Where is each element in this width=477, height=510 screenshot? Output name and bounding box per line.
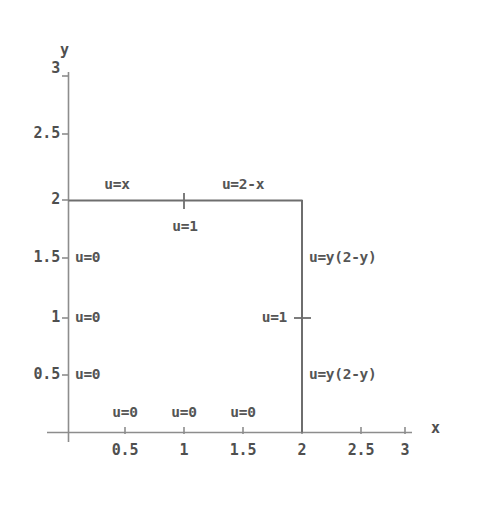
boundary-value-problem-diagram: y x 3 2.5 2 1.5 1 0.5 0.5 1 1.5 2 2.5 3 … (0, 0, 477, 510)
boundary-label-top-mid-inside: u=1 (150, 219, 220, 234)
boundary-label-right-mid: u=1 (205, 310, 287, 325)
boundary-label-right-upper: u=y(2-y) (309, 250, 376, 265)
y-tick-label-1-5: 1.5 (14, 250, 60, 265)
boundary-label-left-1: u=0 (75, 250, 100, 265)
x-tick-label-0-5: 0.5 (95, 443, 155, 458)
boundary-label-top-left: u=x (77, 177, 157, 192)
boundary-label-bottom-3: u=0 (213, 405, 273, 420)
boundary-label-top-right: u=2-x (200, 177, 286, 192)
y-tick-label-1: 1 (24, 310, 60, 325)
diagram-canvas (0, 0, 477, 510)
y-tick-label-2-5: 2.5 (14, 126, 60, 141)
y-tick-label-2: 2 (24, 192, 60, 207)
boundary-label-bottom-1: u=0 (95, 405, 155, 420)
x-tick-label-1: 1 (154, 443, 214, 458)
y-tick-label-0-5: 0.5 (14, 367, 60, 382)
x-tick-label-2: 2 (272, 443, 332, 458)
y-tick-label-3: 3 (24, 61, 60, 76)
boundary-label-right-lower: u=y(2-y) (309, 367, 376, 382)
boundary-label-left-3: u=0 (75, 367, 100, 382)
boundary-label-bottom-2: u=0 (154, 405, 214, 420)
x-axis-label: x (431, 421, 440, 436)
x-tick-label-3: 3 (375, 443, 435, 458)
x-tick-label-1-5: 1.5 (213, 443, 273, 458)
boundary-label-left-2: u=0 (75, 310, 100, 325)
y-axis-label: y (60, 43, 69, 58)
